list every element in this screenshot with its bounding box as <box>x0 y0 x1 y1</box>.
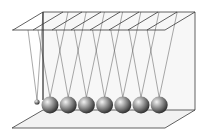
ball <box>151 97 168 114</box>
string <box>28 30 37 100</box>
newtons-cradle-figure <box>0 0 206 135</box>
ball <box>96 97 113 114</box>
back-panel <box>43 12 195 110</box>
ball <box>114 97 131 114</box>
string <box>37 12 43 100</box>
ball <box>42 97 59 114</box>
ball <box>78 97 95 114</box>
ball <box>133 97 150 114</box>
small-ball <box>34 99 39 104</box>
frame-crossbar <box>13 12 43 30</box>
ball <box>60 97 77 114</box>
